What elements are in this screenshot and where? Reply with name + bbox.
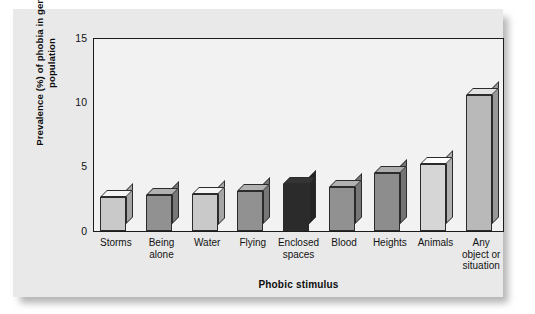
bar-6	[374, 173, 400, 231]
x-category-label-line: Heights	[373, 237, 407, 248]
bar-front-face	[100, 197, 126, 231]
x-category-label-line: Animals	[418, 237, 454, 248]
x-category-label-line: Blood	[331, 237, 357, 248]
bar-front-face	[192, 194, 218, 232]
x-category-label-line: situation	[463, 260, 500, 271]
x-category-label: Heights	[367, 237, 413, 249]
x-category-label-line: Any	[473, 237, 490, 248]
y-tick-label-0: 0	[59, 226, 87, 237]
bar-front-face	[466, 95, 492, 231]
x-category-label-line: Flying	[239, 237, 266, 248]
x-category-label-line: Water	[194, 237, 220, 248]
bar-1	[146, 195, 172, 231]
x-category-label-line: alone	[149, 249, 173, 260]
bar-7	[420, 164, 446, 231]
bar-front-face	[283, 184, 309, 231]
bar-0	[100, 197, 126, 231]
plot-area	[93, 38, 504, 232]
bar-front-face	[329, 187, 355, 231]
chart-page: Prevalence (%) of phobia in general popu…	[0, 0, 535, 314]
x-category-label-line: Being	[149, 237, 175, 248]
y-tick-label-5: 5	[59, 161, 87, 172]
y-axis-ticks: 15 10 5 0	[55, 9, 87, 314]
bar-3	[237, 191, 263, 231]
x-category-label: Storms	[93, 237, 139, 249]
bar-2	[192, 194, 218, 232]
x-category-label: Animals	[413, 237, 459, 249]
bars-container	[94, 39, 503, 231]
bar-4	[283, 184, 309, 231]
y-axis-title-line1: Prevalence (%) of phobia in general	[34, 0, 45, 146]
y-tick-label-15: 15	[59, 33, 87, 44]
x-axis-title: Phobic stimulus	[93, 279, 504, 290]
x-category-label-line: Storms	[100, 237, 132, 248]
x-category-label: Flying	[230, 237, 276, 249]
bar-front-face	[237, 191, 263, 231]
bar-front-face	[374, 173, 400, 231]
bar-front-face	[146, 195, 172, 231]
x-category-label: Enclosedspaces	[276, 237, 322, 260]
bar-side-face	[492, 81, 499, 224]
x-category-label: Beingalone	[139, 237, 185, 260]
x-category-label-line: spaces	[283, 249, 315, 260]
bar-8	[466, 95, 492, 231]
figure-card: Prevalence (%) of phobia in general popu…	[13, 9, 503, 297]
x-category-label: Blood	[321, 237, 367, 249]
x-category-label-line: object or	[462, 249, 500, 260]
x-category-label: Anyobject orsituation	[458, 237, 504, 272]
y-tick-label-10: 10	[59, 97, 87, 108]
x-category-label: Water	[184, 237, 230, 249]
bar-front-face	[420, 164, 446, 231]
bar-5	[329, 187, 355, 231]
x-category-label-line: Enclosed	[278, 237, 319, 248]
